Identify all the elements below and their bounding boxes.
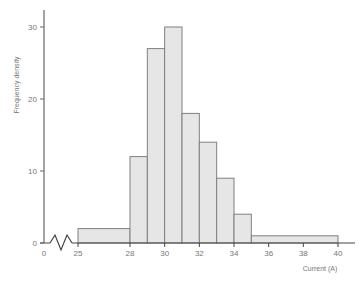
x-tick-label: 25 — [74, 249, 83, 258]
x-tick-label: 38 — [299, 249, 308, 258]
histogram-bar — [182, 113, 199, 243]
histogram-bar — [251, 236, 338, 243]
y-tick-label: 10 — [28, 167, 37, 176]
y-tick-label: 0 — [33, 239, 38, 248]
x-tick-label: 36 — [264, 249, 273, 258]
histogram-bar — [130, 157, 147, 243]
x-tick-label: 28 — [126, 249, 135, 258]
x-tick-label: 0 — [42, 249, 47, 258]
histogram-bar — [78, 229, 130, 243]
x-tick-label: 40 — [334, 249, 343, 258]
x-tick-label: 34 — [230, 249, 239, 258]
y-tick-label: 30 — [28, 23, 37, 32]
histogram-bar — [234, 214, 251, 243]
histogram-bar — [165, 27, 182, 243]
y-tick-label: 20 — [28, 95, 37, 104]
histogram-bar — [147, 49, 164, 243]
x-tick-label: 32 — [195, 249, 204, 258]
histogram-chart: 0102030 02528303234363840 Frequency dens… — [0, 0, 362, 281]
y-axis-label: Frequency density — [13, 56, 21, 114]
histogram-bar — [217, 178, 234, 243]
axis-break-zigzag — [50, 235, 72, 250]
histogram-bar — [199, 142, 216, 243]
x-axis-label: Current (A) — [303, 265, 338, 273]
y-ticks: 0102030 — [28, 23, 44, 248]
histogram-bars — [78, 27, 338, 243]
x-tick-label: 30 — [160, 249, 169, 258]
x-ticks: 02528303234363840 — [42, 243, 343, 258]
